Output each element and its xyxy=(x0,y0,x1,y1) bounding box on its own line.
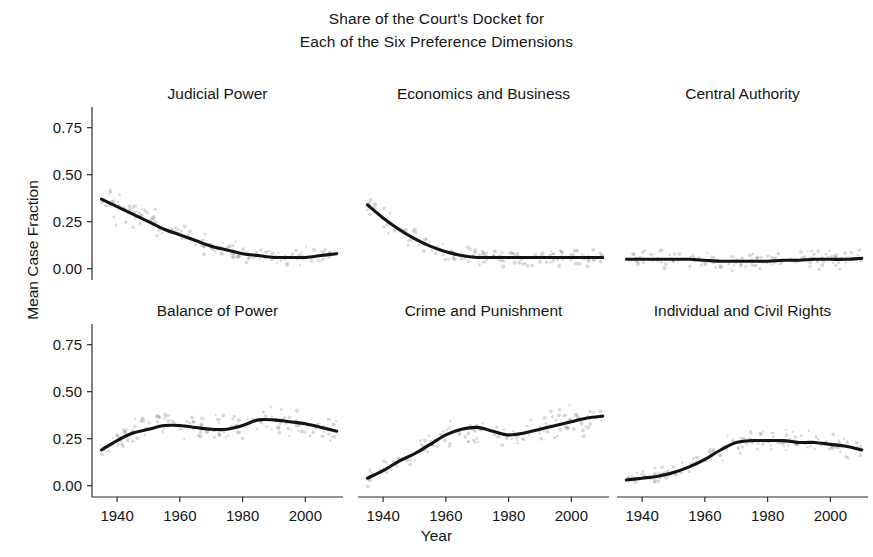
data-point xyxy=(808,265,811,268)
data-point xyxy=(299,252,301,254)
data-point xyxy=(501,265,505,269)
data-point xyxy=(662,266,666,270)
data-point xyxy=(109,191,112,194)
data-point xyxy=(475,437,478,440)
data-point xyxy=(139,419,143,423)
data-point xyxy=(549,261,552,264)
data-point xyxy=(660,466,664,470)
data-point xyxy=(549,409,553,413)
data-point xyxy=(496,436,498,438)
data-point xyxy=(300,430,304,434)
data-point xyxy=(162,430,165,433)
data-point xyxy=(294,248,298,252)
data-point xyxy=(231,244,234,247)
data-point xyxy=(543,416,547,420)
data-point xyxy=(820,263,824,267)
data-point xyxy=(658,249,662,253)
data-point xyxy=(799,434,802,437)
data-point xyxy=(828,250,830,252)
data-point xyxy=(749,430,751,432)
data-point xyxy=(545,260,548,263)
data-point xyxy=(551,415,554,418)
data-point xyxy=(708,450,711,453)
data-point xyxy=(517,261,521,265)
data-point xyxy=(741,445,744,448)
data-point xyxy=(154,208,157,211)
data-point xyxy=(846,441,849,444)
data-point xyxy=(486,251,488,253)
x-tick-label: 1980 xyxy=(479,507,539,524)
y-tick-label: 0.25 xyxy=(26,213,82,230)
data-point xyxy=(118,194,121,197)
data-point xyxy=(813,448,816,451)
data-point xyxy=(584,426,587,429)
data-point xyxy=(551,253,553,255)
data-point xyxy=(807,250,809,252)
data-point xyxy=(204,233,207,236)
data-point xyxy=(766,255,770,259)
data-point xyxy=(582,434,586,438)
data-point xyxy=(828,447,831,450)
data-point xyxy=(407,239,410,242)
data-point xyxy=(478,264,481,267)
data-point xyxy=(831,433,835,437)
data-point xyxy=(719,265,723,269)
data-point xyxy=(598,410,602,414)
data-point xyxy=(727,263,730,266)
data-point xyxy=(541,251,545,255)
data-point xyxy=(112,437,114,439)
data-point xyxy=(241,437,245,441)
data-point xyxy=(810,445,813,448)
trend-line xyxy=(367,416,602,478)
data-point xyxy=(588,422,592,426)
data-point xyxy=(122,428,126,432)
data-point xyxy=(268,250,271,253)
data-point xyxy=(390,468,393,471)
data-point xyxy=(759,256,762,259)
data-point xyxy=(158,415,161,418)
data-point xyxy=(498,259,500,261)
data-point xyxy=(143,208,146,211)
data-point xyxy=(843,437,846,440)
data-point xyxy=(234,240,236,242)
data-point xyxy=(188,421,191,424)
data-point xyxy=(575,413,578,416)
data-point xyxy=(832,262,834,264)
data-point xyxy=(757,442,760,445)
data-point xyxy=(530,264,534,268)
data-point xyxy=(305,246,307,248)
data-point xyxy=(213,436,217,440)
data-point xyxy=(502,260,505,263)
data-point xyxy=(131,225,135,229)
data-point xyxy=(775,256,777,258)
data-point xyxy=(423,238,427,242)
data-point xyxy=(368,213,372,217)
data-point xyxy=(215,414,217,416)
data-point xyxy=(161,232,164,235)
data-point xyxy=(588,410,592,414)
data-point xyxy=(505,437,509,441)
data-point xyxy=(695,456,699,460)
data-point xyxy=(279,260,282,263)
data-point xyxy=(202,253,206,257)
data-point xyxy=(135,437,139,441)
data-point xyxy=(651,253,653,255)
data-point xyxy=(552,259,556,263)
data-point xyxy=(508,252,510,254)
data-point xyxy=(309,435,312,438)
data-point xyxy=(295,409,299,413)
data-point xyxy=(660,261,663,264)
x-tick-label: 2000 xyxy=(541,507,601,524)
data-point xyxy=(368,469,370,471)
x-tick-label: 1980 xyxy=(213,507,273,524)
data-point xyxy=(779,262,782,265)
data-point xyxy=(155,234,158,237)
data-point xyxy=(408,463,412,467)
data-point xyxy=(270,428,272,430)
data-point xyxy=(521,437,523,439)
data-point xyxy=(503,428,505,430)
data-point xyxy=(591,248,595,252)
data-point xyxy=(474,251,477,254)
data-point xyxy=(758,432,762,436)
data-point xyxy=(510,438,512,440)
